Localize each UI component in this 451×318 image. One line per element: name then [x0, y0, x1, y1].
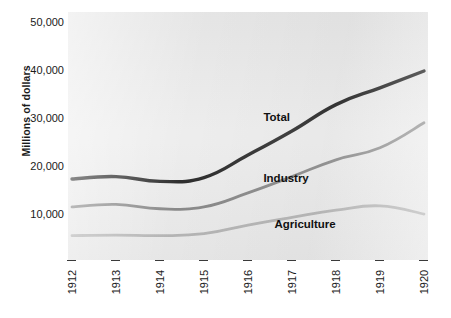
series-line-agriculture: [72, 206, 424, 236]
y-axis-tick-label: 20,000: [6, 161, 64, 172]
x-axis-tick-label: 1917: [286, 260, 298, 304]
x-axis-tick-label: 1914: [154, 260, 166, 304]
plot-area: [68, 12, 428, 260]
x-axis-tick-label: 1918: [330, 260, 342, 304]
y-axis-tick-label: 40,000: [6, 65, 64, 76]
x-axis-tick-label: 1915: [198, 260, 210, 304]
line-chart: Millions of dollars 50,00040,00030,00020…: [0, 0, 451, 318]
series-lines: [68, 12, 428, 260]
x-axis-tick-label: 1913: [110, 260, 122, 304]
x-axis-tick-label: 1920: [418, 260, 430, 304]
y-axis-tick-label: 30,000: [6, 113, 64, 124]
x-axis-tick-label: 1916: [242, 260, 254, 304]
y-axis-tick-label: 10,000: [6, 209, 64, 220]
y-axis-tick-labels: 50,00040,00030,00020,00010,000: [0, 0, 64, 318]
series-line-total: [72, 71, 424, 182]
x-axis-tick-label: 1912: [66, 260, 78, 304]
x-axis-tick-label: 1919: [374, 260, 386, 304]
series-line-industry: [72, 123, 424, 209]
series-label-agriculture: Agriculture: [274, 218, 335, 230]
series-label-industry: Industry: [263, 172, 308, 184]
x-axis: 191219131914191519161917191819191920: [68, 260, 428, 318]
series-label-total: Total: [263, 111, 290, 123]
y-axis-tick-label: 50,000: [6, 17, 64, 28]
